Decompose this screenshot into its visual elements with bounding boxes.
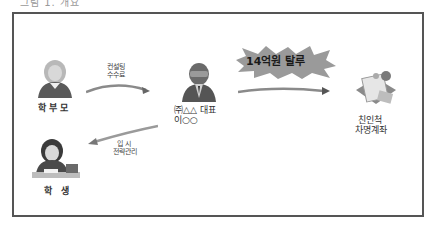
- student-label: 학 생: [44, 187, 72, 196]
- fee-arrow: [86, 82, 150, 98]
- evasion-arrow: [238, 84, 330, 98]
- evasion-amount-label: 14억원 탈루: [246, 56, 305, 68]
- bank-documents-icon: [352, 68, 398, 110]
- ceo-label-line2: 이○○: [174, 116, 198, 125]
- accounts-label-line2: 차명계좌: [355, 126, 387, 135]
- parent-person-icon: [34, 58, 76, 98]
- parents-label: 학부모: [38, 104, 71, 113]
- admission-label-line2: 전략관리: [113, 149, 137, 156]
- student-person-icon: [30, 138, 82, 180]
- businessman-icon: [180, 62, 218, 102]
- fee-label-line2: 수수료: [107, 72, 125, 79]
- figure-caption: 그림 1. 개요: [20, 0, 80, 9]
